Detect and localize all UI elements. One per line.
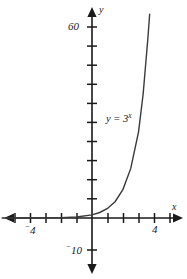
exponential-function-graph: y x 60 ⁻10 ⁻4 4 y = 3x	[0, 0, 187, 279]
y-tick-label-neg10: ⁻10	[66, 244, 82, 256]
curve-exponent: x	[128, 111, 131, 120]
x-axis-label: x	[172, 202, 176, 212]
y-axis-bottom-arrowhead	[87, 264, 96, 274]
x-tick-label-4: 4	[152, 224, 158, 235]
x-axis-right-arrowhead	[173, 213, 183, 222]
curve-equation-label: y = 3x	[106, 114, 132, 125]
y-tick-label-60: 60	[68, 21, 79, 32]
graph-canvas	[0, 0, 187, 279]
y-axis-label: y	[99, 5, 103, 15]
y-axis-top-arrowhead	[87, 7, 96, 17]
x-tick-label-neg4: ⁻4	[25, 224, 35, 236]
